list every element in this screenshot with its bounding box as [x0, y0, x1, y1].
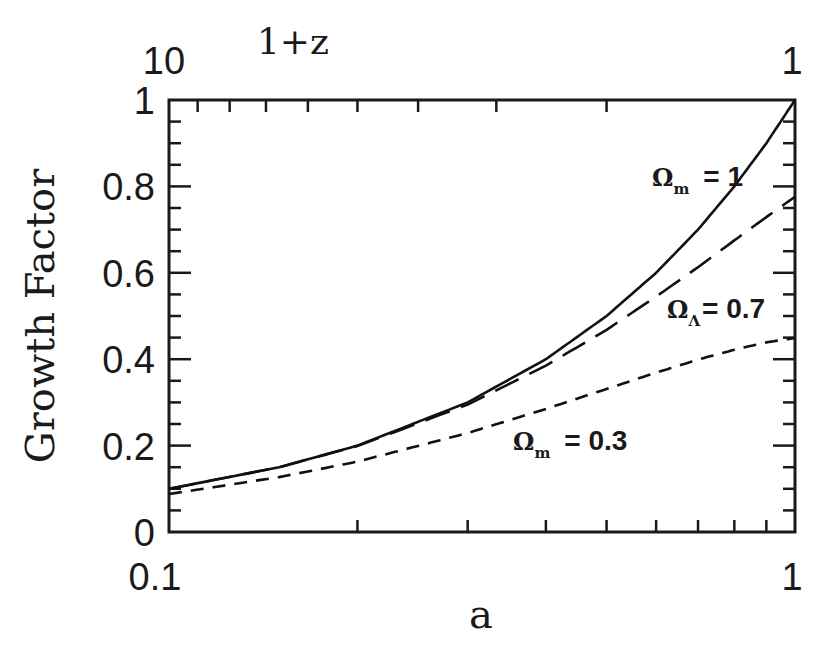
svg-text:ΩΛ= 0.7: ΩΛ= 0.7	[667, 293, 765, 330]
y-tick-label: 0.4	[102, 339, 155, 381]
top-tick-label: 10	[143, 40, 185, 82]
y-tick-label: 0	[134, 512, 155, 554]
top-axis-title: 1+z	[257, 21, 329, 62]
y-tick-labels: 0 0.2 0.4 0.6 0.8 1	[102, 80, 155, 554]
x-tick-labels: 0.1 1	[129, 556, 803, 598]
curve-long-dash	[169, 197, 795, 489]
x-tick-label: 1	[781, 556, 802, 598]
y-tick-label: 1	[134, 80, 155, 122]
y-axis-title: Growth Factor	[17, 168, 63, 463]
growth-factor-chart: 0 0.2 0.4 0.6 0.8 1 0.1 1 10 1 1+z a Gro…	[0, 0, 826, 669]
y-tick-label: 0.8	[102, 166, 155, 208]
top-tick-label: 1	[781, 40, 802, 82]
x-tick-label: 0.1	[129, 556, 182, 598]
top-tick-labels: 10 1	[143, 40, 803, 82]
annotation-omega-lambda-0.7: ΩΛ= 0.7	[667, 293, 765, 330]
x-axis-title: a	[469, 591, 493, 637]
svg-text:Ωm= 0.3: Ωm= 0.3	[513, 425, 627, 462]
y-tick-label: 0.6	[102, 253, 155, 295]
annotation-omega-m-0.3: Ωm= 0.3	[513, 425, 627, 462]
y-tick-label: 0.2	[102, 426, 155, 468]
